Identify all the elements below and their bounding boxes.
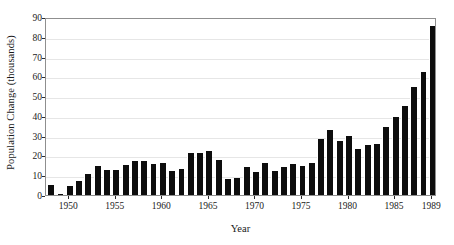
bar <box>280 167 287 195</box>
y-axis-tick-label: 30 <box>18 132 42 142</box>
bar <box>112 170 119 195</box>
bar <box>215 160 222 195</box>
x-axis-tick-label: 1989 <box>422 200 441 212</box>
bar <box>187 153 194 195</box>
x-axis-tick-label: 1950 <box>59 200 78 212</box>
bar <box>420 72 427 195</box>
x-axis-tick-mark <box>394 196 395 199</box>
x-axis-tick-labels: 195019551960196519701975198019851989 <box>45 196 436 216</box>
bar <box>131 161 138 195</box>
y-axis-tick-label: 40 <box>18 112 42 122</box>
y-axis-tick-label: 50 <box>18 92 42 102</box>
bar <box>57 194 64 195</box>
y-axis-tick-label: 90 <box>18 13 42 23</box>
x-axis-tick-label: 1985 <box>385 200 404 212</box>
x-axis-tick-label: 1975 <box>292 200 311 212</box>
bar <box>159 163 166 195</box>
x-axis-tick-label: 1970 <box>245 200 264 212</box>
bar <box>317 139 324 195</box>
bar <box>140 161 147 195</box>
y-axis-tick-label: 70 <box>18 53 42 63</box>
x-axis-tick-mark <box>68 196 69 199</box>
bar <box>289 164 296 195</box>
bar <box>75 181 82 195</box>
x-axis-tick-label: 1980 <box>338 200 357 212</box>
x-axis-tick-mark <box>301 196 302 199</box>
bar <box>308 163 315 195</box>
bar <box>84 174 91 195</box>
bar <box>326 130 333 195</box>
bar <box>66 186 73 195</box>
x-axis-tick-mark <box>348 196 349 199</box>
population-change-bar-chart: Population Change (thousands) 0102030405… <box>0 0 454 245</box>
plot-area <box>45 18 436 196</box>
y-axis-tick-label: 20 <box>18 151 42 161</box>
bar <box>354 149 361 195</box>
bar <box>261 163 268 195</box>
bar <box>47 185 54 195</box>
bar <box>94 166 101 195</box>
x-axis-tick-mark <box>431 196 432 199</box>
bar <box>429 26 436 195</box>
y-axis-tick-label: 0 <box>18 191 42 201</box>
x-axis-tick-mark <box>161 196 162 199</box>
bar <box>178 169 185 195</box>
bar <box>168 171 175 195</box>
bar <box>345 136 352 195</box>
x-axis-tick-mark <box>115 196 116 199</box>
y-axis-tick-label: 80 <box>18 33 42 43</box>
bar <box>392 117 399 195</box>
x-axis-title: Year <box>45 222 436 235</box>
bar <box>196 153 203 195</box>
bar <box>382 127 389 195</box>
x-axis-tick-label: 1960 <box>152 200 171 212</box>
bar <box>205 151 212 195</box>
bar <box>252 172 259 195</box>
bar <box>150 164 157 195</box>
x-axis-tick-mark <box>254 196 255 199</box>
bar-series <box>46 19 435 195</box>
y-axis-tick-labels: 0102030405060708090 <box>18 18 42 196</box>
bar <box>410 87 417 195</box>
x-axis-tick-label: 1955 <box>105 200 124 212</box>
bar <box>224 179 231 195</box>
bar <box>336 141 343 195</box>
bar <box>233 178 240 195</box>
bar <box>299 166 306 195</box>
bar <box>122 165 129 195</box>
x-axis-tick-mark <box>208 196 209 199</box>
x-axis-tick-label: 1965 <box>198 200 217 212</box>
bar <box>364 145 371 195</box>
y-axis-tick-label: 60 <box>18 72 42 82</box>
bar <box>401 106 408 195</box>
bar <box>373 144 380 195</box>
bar <box>271 171 278 195</box>
y-axis-title: Population Change (thousands) <box>4 5 18 200</box>
y-axis-tick-label: 10 <box>18 171 42 181</box>
bar <box>103 170 110 195</box>
bar <box>243 167 250 195</box>
